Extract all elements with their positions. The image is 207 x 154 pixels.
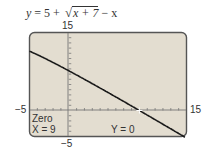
y-min-label: −5 [61,138,72,149]
y-max-label: 15 [62,20,73,31]
y-readout: Y = 0 [111,124,134,135]
x-readout: X = 9 [32,124,56,135]
x-max-label: 15 [190,104,201,115]
calculator-screen [30,33,187,137]
zero-label: Zero [32,113,53,124]
x-min-label: −5 [15,104,26,115]
